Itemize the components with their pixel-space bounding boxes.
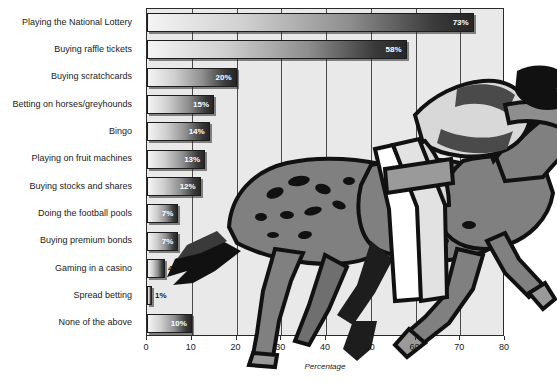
x-axis-tick xyxy=(370,336,371,340)
category-label: Spread betting xyxy=(0,290,132,300)
x-axis-tick-label: 70 xyxy=(454,342,464,352)
x-axis-tick-label: 80 xyxy=(499,342,509,352)
bar[interactable]: 15% xyxy=(147,95,214,114)
bar-value-label: 14% xyxy=(189,127,209,136)
bar-row: 15% xyxy=(147,91,505,118)
bar[interactable]: 12% xyxy=(147,177,201,196)
x-axis-tick-label: 40 xyxy=(320,342,330,352)
category-label: Gaming in a casino xyxy=(0,263,132,273)
bar[interactable]: 13% xyxy=(147,150,205,169)
bar-value-label: 7% xyxy=(162,237,178,246)
bar-value-label: 1% xyxy=(151,291,167,300)
bar-value-label: 4% xyxy=(164,264,180,273)
x-axis: 01020304050607080 xyxy=(146,336,504,360)
x-axis-tick-label: 30 xyxy=(275,342,285,352)
category-label: None of the above xyxy=(0,317,132,327)
bar[interactable]: 14% xyxy=(147,122,210,141)
bar-value-label: 73% xyxy=(453,18,473,27)
bar-value-label: 58% xyxy=(386,45,406,54)
bar-row: 20% xyxy=(147,64,505,91)
category-label: Bingo xyxy=(0,126,132,136)
x-axis-tick xyxy=(415,336,416,340)
bar[interactable]: 20% xyxy=(147,68,237,87)
x-axis-tick-label: 50 xyxy=(365,342,375,352)
x-axis-tick xyxy=(280,336,281,340)
x-axis-tick xyxy=(459,336,460,340)
bar-value-label: 10% xyxy=(171,319,191,328)
x-axis-tick xyxy=(504,336,505,340)
bar-value-label: 7% xyxy=(162,209,178,218)
category-label: Buying scratchcards xyxy=(0,71,132,81)
category-label: Buying raffle tickets xyxy=(0,44,132,54)
bar-row: 13% xyxy=(147,146,505,173)
bar-row: 7% xyxy=(147,200,505,227)
bar-row: 1% xyxy=(147,282,505,309)
bar-value-label: 20% xyxy=(215,73,235,82)
bar-row: 73% xyxy=(147,9,505,36)
category-label-column: Playing the National LotteryBuying raffl… xyxy=(0,8,138,336)
bar[interactable]: 4% xyxy=(147,259,165,278)
bar[interactable]: 58% xyxy=(147,40,407,59)
category-label: Buying stocks and shares xyxy=(0,181,132,191)
category-label: Doing the football pools xyxy=(0,208,132,218)
bar-row: 14% xyxy=(147,118,505,145)
category-label: Playing the National Lottery xyxy=(0,17,132,27)
x-axis-tick-label: 0 xyxy=(143,342,148,352)
x-axis-tick xyxy=(191,336,192,340)
bar[interactable]: 73% xyxy=(147,13,474,32)
x-axis-tick-label: 20 xyxy=(230,342,240,352)
bar-row: 58% xyxy=(147,36,505,63)
x-axis-title: Percentage xyxy=(146,362,504,371)
bar[interactable]: 10% xyxy=(147,314,192,333)
x-axis-tick xyxy=(325,336,326,340)
x-axis-tick-label: 60 xyxy=(409,342,419,352)
bar-value-label: 15% xyxy=(193,100,213,109)
bar-row: 7% xyxy=(147,228,505,255)
bar-value-label: 13% xyxy=(184,155,204,164)
x-axis-tick xyxy=(236,336,237,340)
bar-value-label: 12% xyxy=(180,182,200,191)
category-label: Playing on fruit machines xyxy=(0,153,132,163)
category-label: Betting on horses/greyhounds xyxy=(0,99,132,109)
bar-row: 12% xyxy=(147,173,505,200)
bar[interactable]: 1% xyxy=(147,286,152,305)
x-axis-tick xyxy=(146,336,147,340)
category-label: Buying premium bonds xyxy=(0,235,132,245)
x-axis-tick-label: 10 xyxy=(186,342,196,352)
bar-row: 10% xyxy=(147,310,505,337)
plot-area: 73%58%20%15%14%13%12%7%7%4%1%10% xyxy=(146,8,504,336)
bar[interactable]: 7% xyxy=(147,204,178,223)
bar-row: 4% xyxy=(147,255,505,282)
bars-layer: 73%58%20%15%14%13%12%7%7%4%1%10% xyxy=(147,9,505,337)
bar[interactable]: 7% xyxy=(147,232,178,251)
